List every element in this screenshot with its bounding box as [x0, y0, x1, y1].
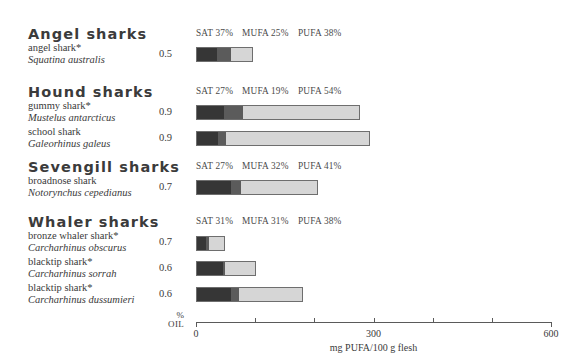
species-common-name: broadnose shark	[28, 175, 97, 187]
percent-annotation-2: SAT 27%MUFA 32%PUFA 41%	[196, 161, 348, 171]
x-axis-tick-label: 300	[354, 328, 394, 339]
bar-segment-sat	[197, 237, 206, 250]
oil-percent-value: 0.7	[146, 181, 172, 192]
stacked-bar	[196, 261, 256, 276]
species-latin-name: Carcharhinus obscurus	[28, 242, 126, 254]
stacked-bar	[196, 287, 303, 302]
mufa-percent-label: MUFA 32%	[242, 161, 298, 171]
species-latin-name: Mustelus antarcticus	[28, 112, 115, 124]
pufa-percent-label: PUFA 41%	[298, 161, 348, 171]
mufa-percent-label: MUFA 31%	[242, 216, 298, 226]
species-latin-name: Squatina australis	[28, 54, 105, 66]
oil-percent-value: 0.5	[146, 48, 172, 59]
species-common-name: angel shark*	[28, 42, 81, 54]
mufa-percent-label: MUFA 19%	[242, 86, 298, 96]
bar-segment-pufa	[241, 181, 317, 194]
species-latin-name: Notorynchus cepedianus	[28, 187, 132, 199]
bar-segment-mufa	[224, 106, 243, 119]
stacked-bar	[196, 47, 253, 62]
oil-percent-value: 0.7	[146, 236, 172, 247]
group-heading-3: Whaler sharks	[28, 214, 160, 230]
mufa-percent-label: MUFA 25%	[242, 28, 298, 38]
bar-segment-sat	[197, 288, 231, 301]
oil-percent-value: 0.9	[146, 106, 172, 117]
x-axis-title: mg PUFA/100 g flesh	[274, 342, 474, 353]
bar-segment-pufa	[243, 106, 359, 119]
species-latin-name: Carcharhinus dussumieri	[28, 294, 134, 306]
oil-axis-label: OIL	[156, 319, 184, 329]
bar-segment-sat	[197, 132, 218, 145]
percent-annotation-0: SAT 37%MUFA 25%PUFA 38%	[196, 28, 348, 38]
bar-segment-sat	[197, 48, 217, 61]
stacked-bar	[196, 180, 318, 195]
species-common-name: bronze whaler shark*	[28, 230, 118, 242]
bar-segment-pufa	[231, 48, 252, 61]
bar-segment-pufa	[209, 237, 224, 250]
percent-annotation-1: SAT 27%MUFA 19%PUFA 54%	[196, 86, 348, 96]
x-axis-tick	[433, 318, 434, 323]
x-axis-tick-label: 0	[176, 328, 216, 339]
pufa-percent-label: PUFA 38%	[298, 28, 348, 38]
oil-percent-value: 0.9	[146, 132, 172, 143]
oil-percent-value: 0.6	[146, 262, 172, 273]
x-axis-end-cap	[551, 322, 552, 327]
species-common-name: school shark	[28, 126, 81, 138]
species-common-name: gummy shark*	[28, 100, 91, 112]
pufa-percent-label: PUFA 54%	[298, 86, 348, 96]
group-heading-1: Hound sharks	[28, 84, 154, 100]
bar-segment-sat	[197, 181, 231, 194]
bar-segment-sat	[197, 262, 223, 275]
bar-segment-mufa	[231, 181, 241, 194]
bar-segment-pufa	[225, 262, 255, 275]
x-axis-tick	[255, 318, 256, 323]
species-common-name: blacktip shark*	[28, 256, 92, 268]
group-heading-0: Angel sharks	[28, 26, 147, 42]
group-heading-2: Sevengill sharks	[28, 159, 180, 175]
sat-percent-label: SAT 27%	[196, 161, 242, 171]
stacked-bar	[196, 131, 370, 146]
x-axis-tick	[314, 318, 315, 323]
stacked-bar	[196, 105, 360, 120]
x-axis-tick-label: 600	[531, 328, 571, 339]
shark-fatty-acid-chart: Angel sharksSAT 37%MUFA 25%PUFA 38%angel…	[0, 0, 571, 362]
stacked-bar	[196, 236, 225, 251]
pufa-percent-label: PUFA 38%	[298, 216, 348, 226]
sat-percent-label: SAT 37%	[196, 28, 242, 38]
bar-segment-pufa	[239, 288, 302, 301]
x-axis-tick	[374, 318, 375, 323]
species-latin-name: Carcharhinus sorrah	[28, 268, 116, 280]
species-latin-name: Galeorhinus galeus	[28, 138, 110, 150]
bar-segment-mufa	[231, 288, 239, 301]
oil-percent-value: 0.6	[146, 288, 172, 299]
x-axis-tick	[492, 318, 493, 323]
sat-percent-label: SAT 31%	[196, 216, 242, 226]
bar-segment-sat	[197, 106, 224, 119]
sat-percent-label: SAT 27%	[196, 86, 242, 96]
species-common-name: blacktip shark*	[28, 282, 92, 294]
bar-segment-pufa	[226, 132, 369, 145]
bar-segment-mufa	[217, 48, 231, 61]
bar-segment-mufa	[218, 132, 226, 145]
percent-annotation-3: SAT 31%MUFA 31%PUFA 38%	[196, 216, 348, 226]
x-axis-start-cap	[196, 322, 197, 327]
